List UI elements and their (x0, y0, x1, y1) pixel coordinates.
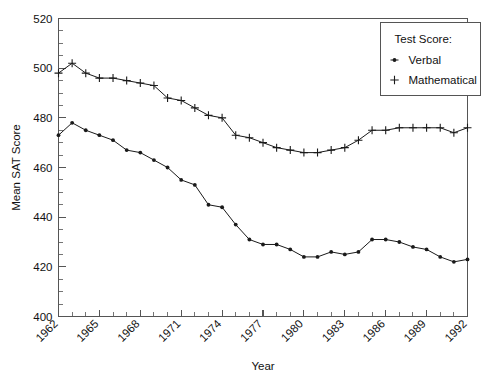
data-point-marker (138, 151, 142, 155)
data-point-marker (220, 205, 224, 209)
data-point-marker (329, 250, 333, 254)
data-point-marker (166, 166, 170, 170)
data-point-marker (111, 138, 115, 142)
legend-item-label: Mathematical (409, 74, 477, 86)
data-point-marker (438, 255, 442, 259)
y-tick-label: 420 (33, 261, 52, 273)
chart-legend[interactable]: Test Score: VerbalMathematical (381, 23, 481, 96)
data-point-marker (343, 253, 347, 257)
data-point-marker (152, 158, 156, 162)
data-point-marker (193, 183, 197, 187)
data-point-marker (357, 250, 361, 254)
chart-canvas: 400420440460480500520 196219651968197119… (0, 0, 496, 384)
data-point-marker (316, 255, 320, 259)
data-point-marker (70, 121, 74, 125)
data-point-marker (84, 128, 88, 132)
data-point-marker (466, 257, 470, 261)
data-point-marker (384, 238, 388, 242)
data-point-marker (125, 148, 129, 152)
y-tick-label: 440 (33, 211, 52, 223)
sat-score-line-chart: 400420440460480500520 196219651968197119… (0, 0, 496, 384)
data-point-marker (179, 178, 183, 182)
data-point-marker (207, 203, 211, 207)
data-point-marker (247, 238, 251, 242)
data-point-marker (425, 248, 429, 252)
data-point-marker (275, 243, 279, 247)
y-tick-label: 500 (33, 62, 52, 74)
data-point-marker (397, 240, 401, 244)
data-point-marker (302, 255, 306, 259)
data-point-marker (288, 248, 292, 252)
y-tick-label: 480 (33, 112, 52, 124)
data-point-marker (234, 223, 238, 227)
legend-title: Test Score: (395, 33, 453, 45)
data-point-marker (57, 133, 61, 137)
data-point-marker (370, 238, 374, 242)
x-axis-title: Year (251, 360, 274, 372)
data-point-marker (411, 245, 415, 249)
legend-item-label: Verbal (409, 54, 442, 66)
y-axis-title: Mean SAT Score (10, 124, 22, 211)
y-tick-label: 460 (33, 162, 52, 174)
data-point-marker (98, 133, 102, 137)
data-point-marker (452, 260, 456, 264)
data-point-marker (261, 243, 265, 247)
y-tick-label: 520 (33, 13, 52, 25)
